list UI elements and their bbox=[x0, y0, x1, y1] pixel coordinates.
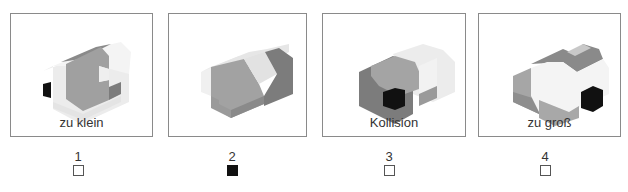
option-number-2: 2 bbox=[222, 149, 242, 164]
option-checkbox-1[interactable] bbox=[73, 165, 84, 176]
option-panel-1: zu klein bbox=[10, 13, 153, 137]
option-checkbox-3[interactable] bbox=[384, 165, 395, 176]
panel-caption: zu groß bbox=[479, 115, 620, 130]
option-number-3: 3 bbox=[379, 149, 399, 164]
panel-caption: Kollision bbox=[323, 115, 465, 130]
option-panel-4: zu groß bbox=[478, 13, 621, 137]
panel-caption: zu klein bbox=[11, 115, 152, 130]
option-number-4: 4 bbox=[535, 149, 555, 164]
house-shape-correct-icon bbox=[169, 14, 308, 138]
option-checkbox-2[interactable] bbox=[227, 165, 238, 176]
option-panel-2 bbox=[168, 13, 307, 137]
option-number-1: 1 bbox=[68, 149, 88, 164]
option-checkbox-4[interactable] bbox=[540, 165, 551, 176]
option-panel-3: Kollision bbox=[322, 13, 466, 137]
